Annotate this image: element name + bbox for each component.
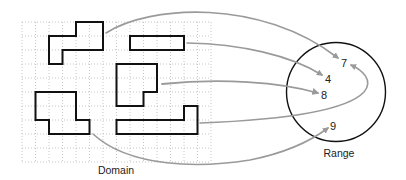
range-value-4: 4 (325, 73, 331, 85)
domain-shapes (36, 22, 198, 134)
arrow-shape-c-to-8 (162, 81, 318, 93)
range-label: Range (324, 147, 355, 159)
shape-c (117, 64, 158, 106)
arrow-shape-b-to-4 (187, 43, 322, 75)
shape-e (117, 106, 198, 134)
mapping-diagram: 7 4 8 9 Domain Range (0, 0, 406, 180)
domain-label: Domain (98, 164, 134, 176)
arrow-shape-e-to-7 (200, 65, 368, 123)
range-value-7: 7 (341, 57, 347, 69)
range-value-9: 9 (330, 120, 336, 132)
range-value-8: 8 (321, 89, 327, 101)
